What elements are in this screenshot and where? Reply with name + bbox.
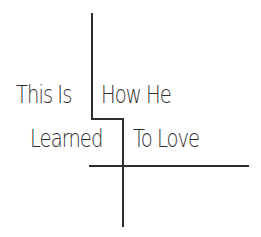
title-word-to-love: To Love [133, 126, 199, 151]
lower-vertical-rule [122, 118, 124, 227]
cross-horizontal-rule [89, 165, 249, 167]
title-cover: This Is How He Learned To Love [0, 0, 261, 237]
upper-vertical-rule [91, 13, 93, 120]
title-word-this-is: This Is [16, 82, 71, 107]
title-word-learned: Learned [30, 126, 102, 151]
title-word-how-he: How He [101, 82, 171, 107]
step-horizontal-rule [91, 118, 124, 120]
